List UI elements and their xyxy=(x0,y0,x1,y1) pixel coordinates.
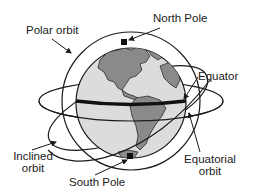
polar-orbit-label: Polar orbit xyxy=(26,24,78,36)
south-pole-label: South Pole xyxy=(69,176,125,188)
globe xyxy=(76,42,186,158)
equatorial-orbit-arrow xyxy=(189,113,200,152)
inclined-orbit-label-line2: orbit xyxy=(13,162,53,174)
north-pole-arrow xyxy=(129,28,160,40)
north-pole-marker xyxy=(121,39,127,45)
equatorial-orbit-label-line1: Equatorial xyxy=(180,153,240,165)
equatorial-orbit-label: Equatorial orbit xyxy=(180,153,240,177)
inclined-orbit-label-line1: Inclined xyxy=(13,150,53,162)
equatorial-orbit-label-line2: orbit xyxy=(180,165,240,177)
equator-label: Equator xyxy=(198,70,238,82)
inclined-orbit-label: Inclined orbit xyxy=(13,150,53,174)
polar-orbit-arrow xyxy=(52,39,71,53)
north-pole-label: North Pole xyxy=(153,12,207,24)
equator-arrow xyxy=(184,77,198,99)
inclined-orbit-arrow xyxy=(32,142,56,150)
south-pole-marker xyxy=(127,153,133,159)
